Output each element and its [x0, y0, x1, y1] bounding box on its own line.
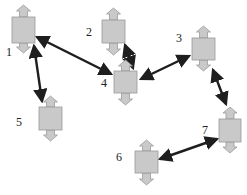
node-label-6: 6 [116, 150, 122, 164]
edge-3-7 [213, 70, 226, 104]
edge-4-3 [141, 56, 189, 79]
down-arrow-icon [119, 93, 133, 105]
node-box [219, 119, 241, 142]
up-arrow-icon [17, 5, 31, 17]
down-arrow-icon [197, 60, 211, 71]
up-arrow-icon [140, 140, 154, 151]
node-box [114, 71, 137, 93]
down-arrow-icon [223, 142, 237, 153]
edge-1-4 [37, 37, 111, 74]
labels-layer: 1234567 [6, 25, 208, 164]
node-label-1: 1 [6, 45, 12, 59]
node-box [135, 151, 158, 173]
node-2 [102, 8, 125, 55]
node-5 [39, 96, 62, 141]
edge-6-7 [160, 139, 217, 159]
node-label-7: 7 [202, 123, 208, 137]
node-label-4: 4 [101, 76, 107, 90]
node-label-3: 3 [176, 31, 182, 45]
node-6 [135, 140, 158, 185]
node-box [192, 38, 215, 60]
node-label-2: 2 [86, 25, 92, 39]
network-diagram: 1234567 [0, 0, 247, 195]
down-arrow-icon [107, 43, 121, 55]
up-arrow-icon [197, 26, 211, 38]
node-box [12, 17, 35, 43]
down-arrow-icon [140, 173, 154, 185]
node-box [39, 107, 62, 130]
up-arrow-icon [44, 96, 58, 107]
down-arrow-icon [17, 43, 31, 53]
node-box [102, 20, 125, 43]
down-arrow-icon [44, 130, 58, 141]
node-1 [12, 5, 35, 53]
nodes-layer [12, 5, 241, 185]
node-7 [219, 107, 241, 153]
diagram-canvas: 1234567 [0, 0, 247, 195]
up-arrow-icon [223, 107, 237, 119]
edge-1-5 [34, 46, 42, 101]
node-3 [192, 26, 215, 71]
up-arrow-icon [107, 8, 121, 20]
node-label-5: 5 [16, 115, 22, 129]
